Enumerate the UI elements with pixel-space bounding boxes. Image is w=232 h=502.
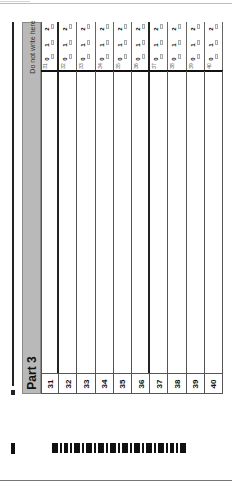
- question-number: 34: [100, 379, 109, 388]
- barcode-bar: [180, 443, 186, 453]
- score-option-0[interactable]: 0: [191, 56, 201, 62]
- score-bubble[interactable]: [124, 24, 127, 29]
- answer-field[interactable]: [187, 71, 205, 373]
- question-column: 3301233: [77, 22, 95, 394]
- answer-field[interactable]: [132, 71, 150, 373]
- question-number-cell: 34: [96, 373, 114, 394]
- score-option-label: 1: [116, 43, 122, 46]
- score-option-0[interactable]: 0: [136, 56, 146, 62]
- score-option-2[interactable]: 2: [118, 26, 128, 32]
- score-option-2[interactable]: 2: [136, 26, 146, 32]
- scan-edge-line: [0, 1, 30, 2]
- question-number: 33: [81, 379, 90, 388]
- barcode-bar: [74, 443, 80, 453]
- score-bubble[interactable]: [142, 54, 145, 59]
- question-column: 3101231: [41, 22, 59, 394]
- barcode-bar: [70, 443, 72, 453]
- score-option-1[interactable]: 1: [136, 42, 146, 48]
- score-bubble[interactable]: [69, 24, 72, 29]
- score-option-0[interactable]: 0: [209, 56, 219, 62]
- question-number: 40: [209, 379, 218, 388]
- score-bubble[interactable]: [87, 40, 90, 45]
- answer-field[interactable]: [150, 71, 168, 373]
- score-option-2[interactable]: 2: [154, 26, 164, 32]
- score-bubble[interactable]: [124, 40, 127, 45]
- score-bubble[interactable]: [69, 54, 72, 59]
- score-bubble[interactable]: [51, 24, 54, 29]
- score-bubble[interactable]: [215, 54, 218, 59]
- score-option-1[interactable]: 1: [63, 42, 73, 48]
- score-option-2[interactable]: 2: [209, 26, 219, 32]
- score-option-1[interactable]: 1: [209, 42, 219, 48]
- score-question-number: 32: [60, 63, 66, 69]
- answer-field[interactable]: [41, 71, 59, 373]
- score-bubble[interactable]: [106, 54, 109, 59]
- score-bubble[interactable]: [106, 40, 109, 45]
- barcode-bar: [94, 443, 96, 453]
- score-option-0[interactable]: 0: [63, 56, 73, 62]
- score-option-2[interactable]: 2: [172, 26, 182, 32]
- score-question-number: 39: [188, 63, 194, 69]
- score-bubble[interactable]: [124, 54, 127, 59]
- score-bubble[interactable]: [197, 24, 200, 29]
- question-column: 3401234: [96, 22, 114, 394]
- score-option-0[interactable]: 0: [154, 56, 164, 62]
- score-bubble[interactable]: [197, 40, 200, 45]
- score-bubble[interactable]: [51, 54, 54, 59]
- score-option-1[interactable]: 1: [172, 42, 182, 48]
- question-column: 4001240: [205, 22, 223, 394]
- answer-field[interactable]: [77, 71, 95, 373]
- score-option-1[interactable]: 1: [118, 42, 128, 48]
- score-bubble[interactable]: [178, 40, 181, 45]
- score-option-1[interactable]: 1: [191, 42, 201, 48]
- score-option-0[interactable]: 0: [100, 56, 110, 62]
- question-column: 3201232: [59, 22, 77, 394]
- question-column: 3601236: [132, 22, 150, 394]
- answer-field[interactable]: [96, 71, 114, 373]
- score-question-number: 37: [151, 63, 157, 69]
- score-option-label: 1: [98, 43, 104, 46]
- score-bubble[interactable]: [142, 24, 145, 29]
- score-option-0[interactable]: 0: [81, 56, 91, 62]
- score-bubble[interactable]: [160, 24, 163, 29]
- score-option-label: 0: [153, 57, 159, 60]
- score-bubble[interactable]: [197, 54, 200, 59]
- score-bubble[interactable]: [160, 54, 163, 59]
- score-bubble[interactable]: [87, 54, 90, 59]
- score-bubble[interactable]: [215, 40, 218, 45]
- score-option-1[interactable]: 1: [154, 42, 164, 48]
- score-option-2[interactable]: 2: [100, 26, 110, 32]
- part-title: Part 3: [25, 356, 39, 389]
- score-option-1[interactable]: 1: [100, 42, 110, 48]
- score-option-label: 1: [153, 43, 159, 46]
- score-bubble[interactable]: [87, 24, 90, 29]
- score-option-0[interactable]: 0: [118, 56, 128, 62]
- score-bubble[interactable]: [51, 40, 54, 45]
- score-question-number: 34: [97, 63, 103, 69]
- score-option-2[interactable]: 2: [63, 26, 73, 32]
- question-columns: 3101231320123233012333401234350123536012…: [41, 22, 223, 394]
- score-bubble[interactable]: [160, 40, 163, 45]
- score-option-2[interactable]: 2: [191, 26, 201, 32]
- score-bubble[interactable]: [178, 54, 181, 59]
- score-option-2[interactable]: 2: [81, 26, 91, 32]
- score-option-0[interactable]: 0: [172, 56, 182, 62]
- score-option-0[interactable]: 0: [45, 56, 55, 62]
- barcode-bar: [176, 443, 178, 453]
- score-option-2[interactable]: 2: [45, 26, 55, 32]
- score-bubble[interactable]: [178, 24, 181, 29]
- score-bubble[interactable]: [69, 40, 72, 45]
- score-option-label: 1: [80, 43, 86, 46]
- answer-field[interactable]: [114, 71, 132, 373]
- answer-field[interactable]: [59, 71, 77, 373]
- do-not-write-label: Do not write here: [28, 20, 35, 73]
- answer-sheet-part-3: Do not write here Part 3 310123132012323…: [22, 22, 223, 394]
- answer-field[interactable]: [205, 71, 223, 373]
- score-option-1[interactable]: 1: [81, 42, 91, 48]
- answer-field[interactable]: [168, 71, 186, 373]
- barcode-bar: [82, 443, 84, 453]
- score-option-1[interactable]: 1: [45, 42, 55, 48]
- score-bubble[interactable]: [142, 40, 145, 45]
- score-bubble[interactable]: [106, 24, 109, 29]
- score-bubble[interactable]: [215, 24, 218, 29]
